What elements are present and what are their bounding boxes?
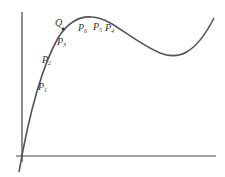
label-p6: P6 — [77, 22, 87, 34]
label-p5: P5 — [92, 21, 102, 33]
secant-tangent-diagram: Q P1 P2 P3 P6 P5 P4 — [0, 0, 225, 177]
label-q: Q — [55, 17, 63, 28]
label-p3: P3 — [56, 36, 66, 48]
function-curve — [19, 17, 214, 172]
label-p1: P1 — [37, 81, 47, 93]
point-q-marker — [62, 28, 65, 31]
diagram-canvas: Q P1 P2 P3 P6 P5 P4 — [0, 0, 225, 177]
